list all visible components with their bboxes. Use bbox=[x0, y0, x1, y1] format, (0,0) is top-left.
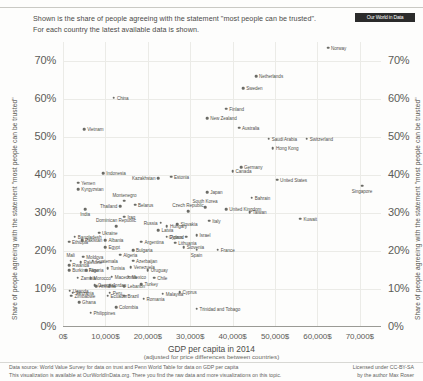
data-point[interactable] bbox=[70, 295, 73, 298]
data-point[interactable] bbox=[127, 276, 130, 279]
data-point[interactable] bbox=[68, 240, 71, 243]
data-point[interactable] bbox=[225, 208, 228, 211]
data-point[interactable] bbox=[238, 126, 241, 129]
data-point[interactable] bbox=[74, 235, 77, 238]
data-point[interactable] bbox=[115, 225, 118, 228]
data-point-label: Guatemala bbox=[96, 258, 118, 263]
data-point-label: Japan bbox=[210, 190, 222, 195]
data-point-label: India bbox=[80, 212, 90, 217]
data-point[interactable] bbox=[250, 197, 253, 200]
data-point-label: Algeria bbox=[123, 252, 137, 257]
data-point[interactable] bbox=[82, 255, 85, 258]
data-point[interactable] bbox=[78, 301, 81, 304]
data-point[interactable] bbox=[267, 138, 270, 141]
data-point[interactable] bbox=[132, 249, 135, 252]
data-point[interactable] bbox=[83, 128, 86, 131]
data-point[interactable] bbox=[195, 249, 198, 252]
data-point[interactable] bbox=[134, 203, 137, 206]
data-point[interactable] bbox=[195, 307, 198, 310]
data-point[interactable] bbox=[115, 306, 118, 309]
data-point[interactable] bbox=[272, 147, 275, 150]
data-point-label: Ukraine bbox=[102, 230, 117, 235]
data-point[interactable] bbox=[123, 295, 126, 298]
x-axis-subtitle: (adjusted for price differences between … bbox=[0, 353, 423, 360]
data-point[interactable] bbox=[255, 75, 258, 78]
data-point-label: Ghana bbox=[82, 300, 96, 305]
data-point[interactable] bbox=[147, 269, 150, 272]
data-point[interactable] bbox=[327, 46, 330, 49]
y-axis-title-right: Share of people agreeing with the statem… bbox=[414, 97, 421, 320]
data-point[interactable] bbox=[231, 170, 234, 173]
data-point-label: France bbox=[221, 247, 235, 252]
data-point[interactable] bbox=[142, 297, 145, 300]
data-point[interactable] bbox=[195, 234, 198, 237]
data-point[interactable] bbox=[89, 277, 92, 280]
data-point[interactable] bbox=[85, 269, 88, 272]
data-point[interactable] bbox=[185, 235, 188, 238]
data-point-label: Thailand bbox=[100, 204, 117, 209]
data-point[interactable] bbox=[68, 269, 71, 272]
data-point[interactable] bbox=[157, 229, 160, 232]
data-point-label: Italy bbox=[212, 218, 220, 223]
data-point[interactable] bbox=[183, 246, 186, 249]
data-point[interactable] bbox=[299, 217, 302, 220]
data-point[interactable] bbox=[113, 97, 116, 100]
data-point[interactable] bbox=[206, 191, 209, 194]
data-point[interactable] bbox=[91, 259, 94, 262]
data-point[interactable] bbox=[77, 181, 80, 184]
data-point[interactable] bbox=[108, 284, 111, 287]
data-point[interactable] bbox=[216, 249, 219, 252]
data-point[interactable] bbox=[130, 266, 133, 269]
data-point[interactable] bbox=[106, 267, 109, 270]
data-point[interactable] bbox=[170, 176, 173, 179]
data-point[interactable] bbox=[208, 219, 211, 222]
footer-divider bbox=[0, 362, 423, 363]
data-point[interactable] bbox=[123, 285, 126, 288]
data-point[interactable] bbox=[225, 107, 228, 110]
data-point[interactable] bbox=[132, 259, 135, 262]
data-point[interactable] bbox=[69, 259, 72, 262]
data-point[interactable] bbox=[102, 172, 105, 175]
data-point-label: Kuwait bbox=[303, 216, 317, 221]
data-point[interactable] bbox=[306, 138, 309, 141]
data-point[interactable] bbox=[157, 177, 160, 180]
data-point[interactable] bbox=[84, 208, 87, 211]
data-point[interactable] bbox=[361, 184, 364, 187]
data-point[interactable] bbox=[104, 239, 107, 242]
data-point[interactable] bbox=[68, 264, 71, 267]
data-point[interactable] bbox=[174, 241, 177, 244]
data-point[interactable] bbox=[110, 276, 113, 279]
data-point[interactable] bbox=[153, 276, 156, 279]
data-point-label: Lebanon bbox=[127, 283, 145, 288]
data-point[interactable] bbox=[77, 188, 80, 191]
data-point[interactable] bbox=[242, 87, 245, 90]
data-point[interactable] bbox=[119, 254, 122, 257]
data-point[interactable] bbox=[123, 200, 126, 203]
data-point[interactable] bbox=[161, 292, 164, 295]
data-point-label: Zimbabwe bbox=[74, 293, 95, 298]
data-point-label: Russia bbox=[144, 220, 158, 225]
data-point[interactable] bbox=[119, 205, 122, 208]
data-point[interactable] bbox=[159, 221, 162, 224]
data-point[interactable] bbox=[106, 295, 109, 298]
y-axis-tick-label-right: 70% bbox=[388, 54, 409, 66]
x-axis-tick-label: 30,000$ bbox=[176, 332, 204, 341]
our-world-in-data-logo[interactable]: Our World in Data bbox=[355, 13, 415, 22]
chart-subtitle: Shown is the share of people agreeing wi… bbox=[33, 14, 333, 35]
data-point[interactable] bbox=[77, 276, 80, 279]
data-point[interactable] bbox=[104, 246, 107, 249]
data-point-label: Albania bbox=[108, 238, 123, 243]
data-point[interactable] bbox=[187, 210, 190, 213]
data-point[interactable] bbox=[206, 117, 209, 120]
data-point-label: Finland bbox=[229, 106, 244, 111]
data-point[interactable] bbox=[204, 206, 207, 209]
data-point[interactable] bbox=[276, 178, 279, 181]
data-point-label: Hong Kong bbox=[276, 146, 299, 151]
data-point[interactable] bbox=[140, 240, 143, 243]
x-axis-tick-label: 0$ bbox=[59, 332, 68, 341]
data-point[interactable] bbox=[248, 211, 251, 214]
y-gridline bbox=[63, 61, 381, 62]
data-point[interactable] bbox=[95, 285, 98, 288]
data-point[interactable] bbox=[178, 291, 181, 294]
data-point[interactable] bbox=[89, 311, 92, 314]
